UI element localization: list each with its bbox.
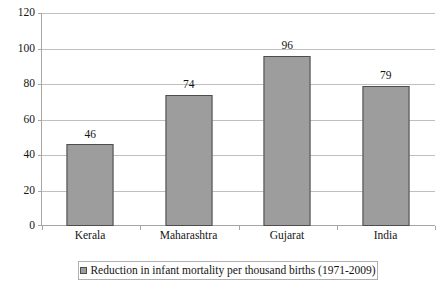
legend-label: Reduction in infant mortality per thousa… (90, 265, 375, 277)
y-axis-tick-label: 100 (18, 43, 35, 55)
legend-square-icon (80, 267, 87, 274)
x-axis-label-maharashtra: Maharashtra (160, 230, 217, 242)
bar-gujarat[interactable] (264, 56, 311, 226)
bar-chart: 120 100 80 60 40 20 0 (0, 0, 446, 291)
y-axis-tick-label: 80 (24, 78, 36, 90)
bar-maharashtra[interactable] (165, 95, 212, 226)
x-axis-label-kerala: Kerala (75, 230, 106, 242)
bars-layer: 46 74 96 79 (41, 13, 435, 226)
x-axis-label-gujarat: Gujarat (270, 230, 304, 242)
bar-value-india: 79 (380, 70, 392, 82)
x-axis-label-india: India (374, 230, 398, 242)
y-axis-tick-label: 120 (18, 7, 35, 19)
bar-india[interactable] (362, 86, 409, 226)
bar-slot-maharashtra: 74 (140, 13, 239, 226)
y-axis-tick-label: 0 (29, 220, 35, 232)
y-axis-tick-label: 20 (24, 185, 36, 197)
x-axis-tick (435, 226, 436, 230)
bar-kerala[interactable] (67, 144, 114, 226)
bar-slot-india: 79 (337, 13, 436, 226)
y-axis-tick-label: 40 (24, 149, 36, 161)
bar-slot-kerala: 46 (41, 13, 140, 226)
bar-value-maharashtra: 74 (183, 79, 195, 91)
bar-value-gujarat: 96 (282, 40, 294, 52)
chart-legend: Reduction in infant mortality per thousa… (78, 261, 378, 280)
bar-slot-gujarat: 96 (238, 13, 337, 226)
x-axis-category-labels: Kerala Maharashtra Gujarat India (41, 230, 435, 250)
plot-wrapper: 120 100 80 60 40 20 0 (0, 0, 446, 250)
bar-value-kerala: 46 (85, 129, 97, 141)
y-axis-tick-label: 60 (24, 114, 36, 126)
y-axis-tick-labels: 120 100 80 60 40 20 0 (0, 0, 40, 250)
